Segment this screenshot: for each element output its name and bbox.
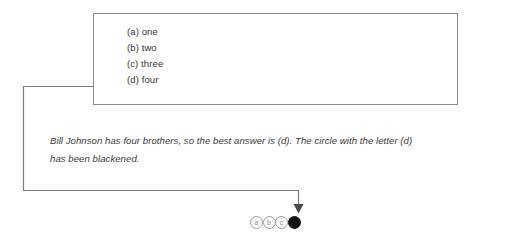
answer-choice-box: (a) one (b) two (c) three (d) four <box>93 13 458 105</box>
figure-canvas: (a) one (b) two (c) three (d) four Bill … <box>0 0 509 242</box>
answer-choice-a: (a) one <box>127 24 163 40</box>
answer-bubble-row: a b c d <box>250 216 300 229</box>
answer-bubble-b[interactable]: b <box>263 216 276 229</box>
explanation-line-2: has been blackened. <box>50 150 470 168</box>
answer-choice-b: (b) two <box>127 40 163 56</box>
answer-choice-list: (a) one (b) two (c) three (d) four <box>127 24 163 88</box>
answer-choice-c: (c) three <box>127 56 163 72</box>
answer-bubble-d-filled[interactable]: d <box>288 216 301 229</box>
answer-choice-d: (d) four <box>127 72 163 88</box>
answer-bubble-c[interactable]: c <box>275 216 288 229</box>
answer-bubble-a[interactable]: a <box>250 216 263 229</box>
explanation-line-1: Bill Johnson has four brothers, so the b… <box>50 132 470 150</box>
explanation-text: Bill Johnson has four brothers, so the b… <box>50 132 470 168</box>
arrowhead-icon <box>294 204 304 214</box>
